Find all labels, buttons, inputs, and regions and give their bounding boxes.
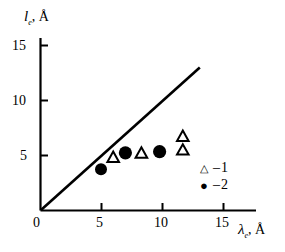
data-point-series2 (119, 146, 132, 159)
legend-dash-1: – (212, 161, 220, 175)
legend-dash-2: – (212, 178, 220, 192)
legend-label-1: 1 (220, 161, 228, 175)
x-tick-label-10: 10 (154, 216, 168, 230)
scatter-plot-figure: le, Å λe, Å 15 10 5 0 5 10 15 △ – 1 ● – … (0, 0, 285, 252)
y-tick-label-10: 10 (12, 94, 26, 108)
x-axis-title: λe, Å (238, 222, 265, 240)
y-tick-label-15: 15 (12, 39, 26, 53)
open-triangle-icon: △ (196, 163, 212, 174)
x-tick-label-15: 15 (215, 216, 229, 230)
x-axis-unit: , Å (248, 222, 265, 237)
data-point-series1 (177, 131, 189, 141)
data-point-series1 (136, 147, 148, 157)
legend-label-2: 2 (220, 178, 228, 192)
legend-entry-2: ● – 2 (196, 178, 228, 192)
identity-reference-line (41, 68, 200, 211)
y-tick-label-5: 5 (20, 149, 27, 163)
filled-circle-icon: ● (196, 179, 212, 192)
data-point-series2 (95, 163, 107, 175)
data-point-series1 (177, 144, 189, 154)
data-point-series1 (107, 152, 119, 162)
plot-canvas (0, 0, 285, 252)
y-axis-unit: , Å (32, 9, 49, 24)
y-axis-title: le, Å (24, 9, 49, 27)
x-tick-label-5: 5 (96, 216, 103, 230)
data-point-series2 (153, 145, 166, 158)
x-tick-label-0: 0 (33, 216, 40, 230)
legend-entry-1: △ – 1 (196, 161, 228, 175)
